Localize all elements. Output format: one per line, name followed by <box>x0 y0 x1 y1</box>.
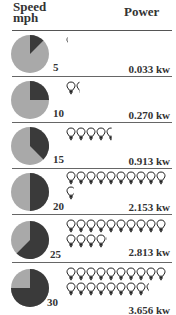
power-fraction-pie <box>11 221 49 259</box>
power-value: 0.033 kw <box>128 63 170 75</box>
light-bulb-icon <box>86 267 96 281</box>
light-bulb-icon <box>86 171 96 185</box>
light-bulb-icon <box>86 234 96 248</box>
chart-header: Speed mph Power <box>0 0 176 30</box>
light-bulb-icon <box>146 219 156 233</box>
bulb-pictogram <box>66 127 172 142</box>
light-bulb-icon <box>116 267 126 281</box>
light-bulb-icon <box>126 171 136 185</box>
light-bulb-icon <box>106 171 116 185</box>
light-bulb-icon <box>66 171 76 185</box>
speed-value: 15 <box>53 153 64 165</box>
light-bulb-icon <box>96 219 106 233</box>
row-divider <box>12 262 172 263</box>
light-bulb-icon <box>76 219 86 233</box>
light-bulb-icon <box>66 234 76 248</box>
light-bulb-icon <box>106 282 116 296</box>
row-divider <box>12 122 172 123</box>
light-bulb-icon <box>126 267 136 281</box>
light-bulb-icon <box>86 127 96 141</box>
light-bulb-icon <box>66 81 76 95</box>
light-bulb-icon <box>146 282 156 296</box>
light-bulb-icon <box>126 219 136 233</box>
light-bulb-icon <box>106 234 116 248</box>
light-bulb-icon <box>136 219 146 233</box>
speed-value: 5 <box>53 61 59 73</box>
light-bulb-icon <box>76 234 86 248</box>
light-bulb-icon <box>86 282 96 296</box>
bulb-pictogram <box>66 171 172 201</box>
speed-value: 30 <box>47 296 58 308</box>
power-value: 2.813 kw <box>128 246 170 258</box>
speed-column-header: Speed mph <box>13 1 46 23</box>
speed-row-5: 50.033 kw <box>0 32 176 78</box>
light-bulb-icon <box>96 267 106 281</box>
light-bulb-icon <box>66 267 76 281</box>
light-bulb-icon <box>136 267 146 281</box>
light-bulb-icon <box>156 171 166 185</box>
speed-value: 20 <box>53 200 64 212</box>
speed-value: 25 <box>50 248 61 260</box>
speed-value: 10 <box>53 107 64 119</box>
light-bulb-icon <box>76 171 86 185</box>
light-bulb-icon <box>66 127 76 141</box>
power-value: 2.153 kw <box>128 201 170 213</box>
header-divider <box>12 30 172 31</box>
light-bulb-icon <box>106 219 116 233</box>
light-bulb-icon <box>86 219 96 233</box>
light-bulb-icon <box>66 282 76 296</box>
light-bulb-icon <box>146 267 156 281</box>
speed-row-15: 150.913 kw <box>0 124 176 170</box>
power-fraction-pie <box>11 81 49 119</box>
speed-row-20: 202.153 kw <box>0 170 176 216</box>
light-bulb-icon <box>76 282 86 296</box>
speed-row-25: 252.813 kw <box>0 218 176 264</box>
bulb-pictogram <box>66 267 172 297</box>
power-fraction-pie <box>11 127 49 165</box>
power-value: 0.913 kw <box>128 155 170 167</box>
light-bulb-icon <box>156 267 166 281</box>
light-bulb-icon <box>116 219 126 233</box>
light-bulb-icon <box>96 234 106 248</box>
power-fraction-pie <box>11 35 49 73</box>
light-bulb-icon <box>76 267 86 281</box>
light-bulb-icon <box>136 282 146 296</box>
light-bulb-icon <box>66 219 76 233</box>
light-bulb-icon <box>106 267 116 281</box>
bulb-pictogram <box>66 81 172 96</box>
power-fraction-pie <box>11 269 49 307</box>
light-bulb-icon <box>66 35 76 49</box>
light-bulb-icon <box>106 127 116 141</box>
light-bulb-icon <box>116 171 126 185</box>
light-bulb-icon <box>136 171 146 185</box>
row-divider <box>12 214 172 215</box>
row-divider <box>12 76 172 77</box>
light-bulb-icon <box>126 282 136 296</box>
bulb-pictogram <box>66 219 172 249</box>
light-bulb-icon <box>96 127 106 141</box>
row-divider <box>12 168 172 169</box>
power-value: 3.656 kw <box>128 304 170 315</box>
light-bulb-icon <box>116 282 126 296</box>
speed-row-10: 100.270 kw <box>0 78 176 124</box>
light-bulb-icon <box>146 171 156 185</box>
bulb-pictogram <box>66 35 172 50</box>
light-bulb-icon <box>66 186 76 200</box>
light-bulb-icon <box>76 81 86 95</box>
power-fraction-pie <box>11 173 49 211</box>
power-column-header: Power <box>124 4 159 20</box>
light-bulb-icon <box>96 282 106 296</box>
light-bulb-icon <box>76 127 86 141</box>
speed-row-30: 303.656 kw <box>0 266 176 312</box>
light-bulb-icon <box>96 171 106 185</box>
light-bulb-icon <box>156 219 166 233</box>
power-value: 0.270 kw <box>128 109 170 121</box>
